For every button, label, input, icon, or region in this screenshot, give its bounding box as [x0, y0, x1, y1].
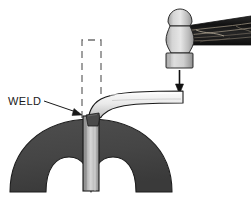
- technical-diagram-bending-welded-bar: WELD: [0, 0, 251, 199]
- hammer-neck: [166, 26, 194, 53]
- weld-label: WELD: [8, 95, 41, 107]
- bar-vertical-leg: [83, 116, 99, 191]
- diagram-canvas: WELD: [0, 0, 251, 199]
